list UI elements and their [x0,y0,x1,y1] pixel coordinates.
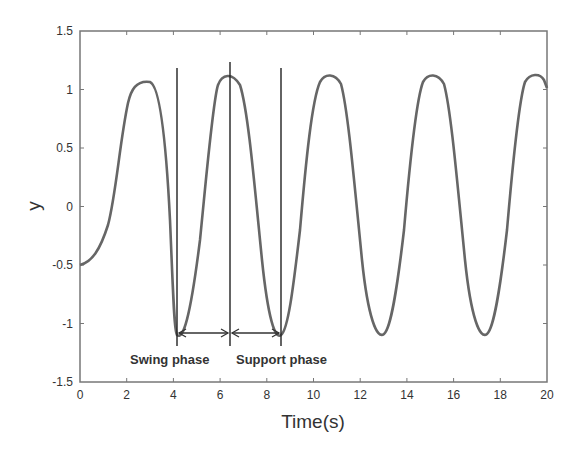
y-axis-label: y [23,201,44,211]
chart: 0 2 4 6 8 10 12 14 16 18 20 1.5 1 0.5 0 … [0,0,583,455]
svg-text:14: 14 [400,388,414,402]
svg-text:12: 12 [354,388,368,402]
y-tick-labels: 1.5 1 0.5 0 -0.5 -1 -1.5 [52,24,73,389]
svg-text:4: 4 [170,388,177,402]
svg-text:-0.5: -0.5 [52,258,73,272]
swing-phase-label: Swing phase [130,352,209,367]
svg-text:2: 2 [123,388,130,402]
svg-text:6: 6 [217,388,224,402]
x-tick-labels: 0 2 4 6 8 10 12 14 16 18 20 [77,388,554,402]
svg-text:16: 16 [447,388,461,402]
plot-area [80,31,547,382]
svg-text:1.5: 1.5 [56,24,73,38]
support-phase-label: Support phase [236,352,327,367]
svg-text:1: 1 [66,83,73,97]
svg-text:-1: -1 [62,317,73,331]
svg-text:0: 0 [66,200,73,214]
svg-text:10: 10 [307,388,321,402]
svg-text:8: 8 [263,388,270,402]
svg-text:20: 20 [540,388,554,402]
svg-text:18: 18 [494,388,508,402]
svg-text:0: 0 [77,388,84,402]
svg-text:0.5: 0.5 [56,141,73,155]
svg-text:-1.5: -1.5 [52,375,73,389]
x-axis-label: Time(s) [281,411,345,432]
